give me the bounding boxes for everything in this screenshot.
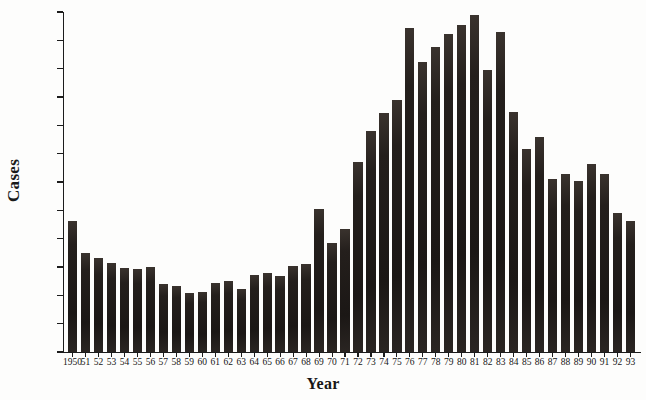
x-tick-label: 69: [314, 357, 324, 367]
x-tick-label: 81: [470, 357, 480, 367]
bar: [574, 181, 583, 352]
y-tick-mark: [57, 96, 63, 97]
x-tick-label: 89: [574, 357, 584, 367]
bar: [626, 221, 635, 352]
y-tick-mark: [57, 238, 63, 239]
y-tick-mark: [57, 125, 63, 126]
x-tick-label: 82: [483, 357, 493, 367]
bar: [353, 162, 362, 352]
bar: [418, 62, 427, 352]
bar: [535, 137, 544, 352]
bar: [107, 263, 116, 352]
x-tick-label: 88: [561, 357, 571, 367]
bar: [392, 100, 401, 352]
x-tick-label: 87: [548, 357, 558, 367]
bar: [198, 292, 207, 352]
x-axis-title: Year: [0, 375, 646, 393]
bar: [133, 269, 142, 352]
x-tick-label: 68: [301, 357, 311, 367]
x-tick-label: 56: [146, 357, 156, 367]
bar: [263, 273, 272, 352]
x-tick-label: 1950: [63, 357, 82, 367]
bar: [185, 293, 194, 352]
x-tick-label: 70: [327, 357, 337, 367]
bar: [509, 112, 518, 352]
bar: [613, 213, 622, 352]
x-tick-label: 84: [509, 357, 519, 367]
y-tick-mark: [57, 210, 63, 211]
x-tick-label: 80: [457, 357, 467, 367]
bar: [301, 264, 310, 352]
bar: [457, 25, 466, 352]
x-tick-label: 67: [288, 357, 298, 367]
bar: [288, 266, 297, 352]
x-tick-label: 73: [366, 357, 376, 367]
x-tick-label: 51: [81, 357, 91, 367]
x-tick-label: 55: [133, 357, 143, 367]
bar: [120, 268, 129, 352]
bar: [327, 243, 336, 352]
x-tick-label: 64: [249, 357, 259, 367]
x-tick-label: 54: [120, 357, 130, 367]
bar: [431, 47, 440, 352]
x-tick-label: 52: [94, 357, 104, 367]
x-tick-label: 53: [107, 357, 117, 367]
bar: [94, 258, 103, 352]
x-tick-label: 61: [210, 357, 220, 367]
y-tick-mark: [57, 323, 63, 324]
y-tick-mark: [57, 68, 63, 69]
x-tick-label: 91: [600, 357, 610, 367]
bar: [444, 34, 453, 352]
x-tick-label: 60: [198, 357, 208, 367]
x-tick-label: 92: [613, 357, 623, 367]
x-tick-label: 78: [431, 357, 441, 367]
x-tick-label: 93: [626, 357, 636, 367]
y-tick-mark: [57, 295, 63, 296]
bar: [275, 276, 284, 352]
x-tick-label: 62: [223, 357, 233, 367]
bar: [340, 229, 349, 352]
x-tick-label: 86: [535, 357, 545, 367]
x-tick-label: 72: [353, 357, 363, 367]
x-tick-label: 76: [405, 357, 415, 367]
bars-layer: [64, 12, 642, 352]
x-tick-label: 74: [379, 357, 389, 367]
x-tick-label: 71: [340, 357, 350, 367]
bar: [483, 70, 492, 352]
y-tick-mark: [57, 266, 63, 267]
bar: [522, 149, 531, 352]
bar: [250, 275, 259, 352]
x-tick-label: 85: [522, 357, 532, 367]
bar: [211, 283, 220, 352]
x-tick-label: 57: [159, 357, 169, 367]
bar: [470, 15, 479, 352]
bar: [548, 179, 557, 352]
bar: [587, 164, 596, 352]
x-tick-label: 77: [418, 357, 428, 367]
x-tick-label: 79: [444, 357, 454, 367]
y-tick-mark: [57, 11, 63, 12]
bar: [314, 209, 323, 352]
x-tick-label: 59: [185, 357, 195, 367]
x-tick-label: 83: [496, 357, 506, 367]
x-tick-label: 90: [587, 357, 597, 367]
y-tick-mark: [57, 181, 63, 182]
bar: [172, 286, 181, 352]
x-tick-label: 63: [236, 357, 246, 367]
bar: [600, 174, 609, 352]
bar: [379, 113, 388, 352]
bar: [496, 32, 505, 352]
bar: [405, 28, 414, 352]
bar: [81, 253, 90, 352]
bar: [366, 131, 375, 352]
x-tick-label: 58: [172, 357, 182, 367]
bar: [159, 284, 168, 352]
y-tick-mark: [57, 153, 63, 154]
bar: [237, 289, 246, 352]
bar-chart: Cases 0100200300400500600700800900100011…: [0, 0, 646, 400]
y-tick-mark: [57, 351, 63, 352]
x-tick-label: 66: [275, 357, 285, 367]
bar: [68, 221, 77, 352]
bar: [561, 174, 570, 352]
y-tick-mark: [57, 40, 63, 41]
